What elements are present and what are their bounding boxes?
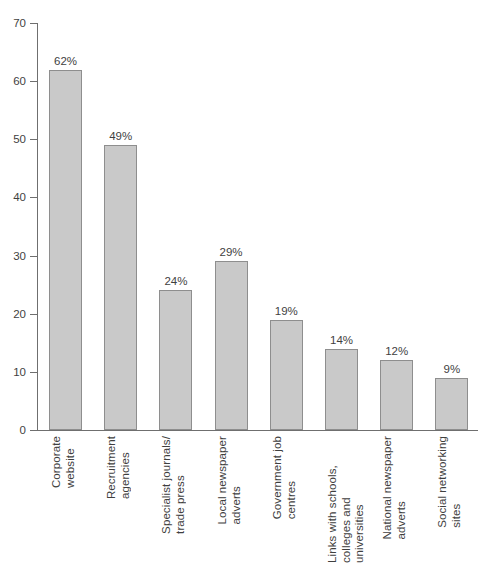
category-label: Recruitment agencies: [105, 436, 132, 499]
bar-group[interactable]: 19%: [270, 320, 303, 430]
bar-group[interactable]: 29%: [215, 261, 248, 430]
category-label: Social networking sites: [436, 436, 463, 528]
bar-group[interactable]: 24%: [159, 290, 192, 430]
bar-value-label: 12%: [385, 344, 408, 358]
bar[interactable]: [270, 320, 303, 430]
bar-group[interactable]: 12%: [380, 360, 413, 430]
bar-value-label: 49%: [109, 129, 132, 143]
category-label: National newspaper adverts: [381, 436, 408, 539]
bar[interactable]: [49, 70, 82, 430]
bar-value-label: 19%: [275, 304, 298, 318]
bar-chart: 010203040506070 62%49%24%29%19%14%12%9% …: [0, 0, 485, 563]
category-label: Specialist journals/ trade press: [160, 436, 187, 534]
category-label: Government job centres: [271, 436, 298, 519]
bar-value-label: 9%: [444, 362, 461, 376]
bar[interactable]: [435, 378, 468, 430]
bar-group[interactable]: 9%: [435, 378, 468, 430]
bar-group[interactable]: 62%: [49, 70, 82, 430]
category-label: Local newspaper adverts: [216, 436, 243, 524]
bar-group[interactable]: 49%: [104, 145, 137, 430]
bar-value-label: 24%: [164, 274, 187, 288]
bar-group[interactable]: 14%: [325, 349, 358, 430]
category-label: Corporate website: [50, 436, 77, 488]
bar[interactable]: [159, 290, 192, 430]
bar-value-label: 29%: [220, 245, 243, 259]
category-label: Links with schools, colleges and univers…: [326, 436, 367, 563]
bar-value-label: 62%: [54, 54, 77, 68]
bar[interactable]: [325, 349, 358, 430]
bar[interactable]: [215, 261, 248, 430]
bar-value-label: 14%: [330, 333, 353, 347]
bar[interactable]: [104, 145, 137, 430]
bar[interactable]: [380, 360, 413, 430]
